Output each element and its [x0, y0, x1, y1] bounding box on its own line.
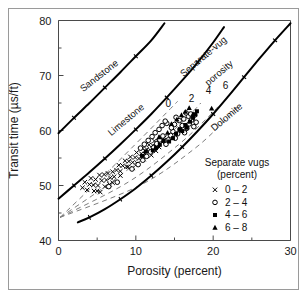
- data-point: [136, 162, 141, 167]
- data-point: [123, 159, 127, 163]
- y-tick-label: 70: [39, 70, 51, 82]
- data-point: [127, 159, 131, 163]
- y-tick-label: 50: [39, 180, 51, 192]
- y-tick-label: 60: [39, 125, 51, 137]
- vug-line-label-2: 2: [189, 93, 195, 104]
- data-point: [174, 132, 178, 136]
- data-point: [188, 120, 192, 124]
- legend-entries: 0 – 22 – 44 – 66 – 8: [212, 184, 247, 233]
- figure-container: 0102030 4050607080 Porosity (percent) Tr…: [0, 0, 307, 298]
- x-axis-title: Porosity (percent): [127, 264, 222, 278]
- data-point: [106, 184, 111, 189]
- data-point: [117, 163, 121, 167]
- data-point: [192, 124, 197, 129]
- legend-item[interactable]: 2 – 4: [213, 197, 248, 208]
- legend-marker-square: [213, 213, 217, 217]
- legend-marker-x: [213, 188, 217, 192]
- data-point: [102, 172, 106, 176]
- data-point: [167, 140, 171, 144]
- data-point: [112, 175, 116, 179]
- series-x: [80, 135, 166, 194]
- data-point: [83, 180, 87, 184]
- legend-marker-triangle: [212, 225, 217, 230]
- data-point: [130, 167, 135, 172]
- data-point: [183, 123, 187, 127]
- data-point: [115, 180, 120, 185]
- legend-label: 2 – 4: [225, 197, 248, 208]
- data-point: [142, 142, 147, 147]
- vug-line-value-labels: 0246: [166, 80, 229, 109]
- data-point: [171, 136, 175, 140]
- data-point: [80, 186, 84, 190]
- data-point: [146, 138, 151, 143]
- annotation-sandstone: Sandstone: [78, 57, 121, 94]
- annotation-limestone: Limestone: [106, 101, 147, 138]
- data-point: [128, 155, 132, 159]
- x-axis-tick-labels: 0102030: [55, 245, 296, 257]
- data-point: [181, 117, 186, 122]
- data-point: [147, 143, 151, 147]
- data-point: [104, 178, 108, 182]
- legend-item[interactable]: 6 – 8: [212, 222, 247, 233]
- legend-marker-circle: [213, 200, 218, 205]
- data-point: [144, 154, 149, 159]
- data-point: [96, 183, 100, 187]
- x-tick-label: 30: [284, 245, 296, 257]
- data-point: [140, 158, 145, 163]
- vug-line-label-0: 0: [166, 98, 172, 109]
- legend-label: 0 – 2: [225, 184, 248, 195]
- y-tick-label: 80: [39, 15, 51, 27]
- data-point: [158, 143, 162, 147]
- y-tick-label: 40: [39, 235, 51, 247]
- data-point: [187, 105, 192, 110]
- y-axis-tick-labels: 4050607080: [39, 15, 51, 247]
- data-point: [120, 164, 124, 168]
- data-point: [131, 160, 135, 164]
- data-point: [161, 134, 166, 139]
- data-point: [209, 106, 214, 111]
- x-tick-label: 20: [207, 245, 219, 257]
- x-tick-label: 0: [55, 245, 61, 257]
- data-point: [92, 189, 96, 193]
- legend-label: 6 – 8: [225, 222, 248, 233]
- data-point: [151, 148, 155, 152]
- legend-title-line2: (percent): [217, 169, 257, 180]
- data-point: [195, 109, 199, 113]
- chart-canvas: 0102030 4050607080 Porosity (percent) Tr…: [0, 0, 307, 298]
- data-point: [194, 120, 199, 125]
- data-point: [160, 123, 165, 128]
- data-point: [140, 154, 144, 158]
- x-axis-ticks: [59, 236, 291, 241]
- legend-label: 4 – 6: [225, 209, 248, 220]
- legend-title-line1: Separate vugs: [205, 157, 270, 168]
- y-axis-title: Transit time (µs/ft): [7, 82, 21, 178]
- legend-item[interactable]: 4 – 6: [213, 209, 248, 220]
- data-point: [163, 119, 168, 124]
- x-tick-label: 10: [130, 245, 142, 257]
- curve-annotations: SandstoneLimestoneDolomiteSeparate-vugpo…: [78, 34, 245, 138]
- data-point: [165, 130, 170, 135]
- data-point: [162, 139, 166, 143]
- legend-item[interactable]: 0 – 2: [213, 184, 248, 195]
- data-point: [178, 127, 182, 131]
- data-point: [87, 182, 91, 186]
- data-point: [93, 177, 97, 181]
- data-point: [138, 146, 143, 151]
- data-point: [133, 155, 137, 159]
- legend: Separate vugs (percent) 0 – 22 – 44 – 66…: [205, 157, 270, 233]
- data-point: [144, 149, 148, 153]
- data-point: [89, 176, 93, 180]
- annotation-porosity: porosity: [202, 58, 235, 88]
- vug-line-label-4: 4: [206, 85, 212, 96]
- data-point: [118, 173, 122, 177]
- data-point: [134, 150, 138, 154]
- data-point: [118, 169, 122, 173]
- vug-line-label-6: 6: [223, 80, 229, 91]
- annotation-dolomite: Dolomite: [208, 101, 244, 134]
- data-point: [153, 130, 158, 135]
- data-point: [108, 176, 112, 180]
- data-point: [100, 178, 104, 182]
- data-point: [97, 173, 101, 177]
- data-point: [91, 183, 95, 187]
